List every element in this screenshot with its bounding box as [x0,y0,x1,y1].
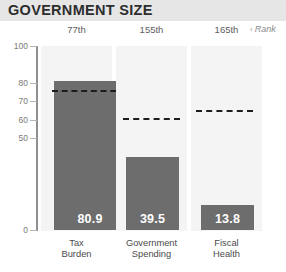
reference-line-fiscal-health [196,110,253,112]
y-tick-label-60: 60 [0,115,28,125]
y-tick-80 [30,83,37,84]
category-label-fiscal-health: Fiscal Health [185,238,268,260]
y-tick-50 [30,138,37,139]
government-size-chart: GOVERNMENT SIZE 77th 155th 165th ‹Rank 1… [0,0,286,272]
column-background-fiscal-health [191,46,262,231]
y-tick-100 [30,46,37,47]
category-label-tax-burden: Tax Burden [35,238,118,260]
y-tick-label-70: 70 [0,96,28,106]
y-tick-label-100: 100 [0,41,28,51]
plot-area: 100807060500 80.939.513.8 Tax BurdenGove… [0,0,286,272]
reference-line-government-spending [123,118,180,120]
reference-line-tax-burden [52,90,126,92]
y-tick-label-80: 80 [0,78,28,88]
y-tick-label-50: 50 [0,133,28,143]
category-label-government-spending: Government Spending [110,238,193,260]
bar-value-fiscal-health: 13.8 [201,212,254,226]
y-tick-70 [30,101,37,102]
bar-government-spending[interactable]: 39.5 [126,157,179,230]
bar-fiscal-health[interactable]: 13.8 [201,205,254,230]
bar-value-government-spending: 39.5 [126,212,179,226]
y-tick-0 [30,230,37,231]
y-tick-label-0: 0 [0,225,28,235]
y-tick-60 [30,120,37,121]
